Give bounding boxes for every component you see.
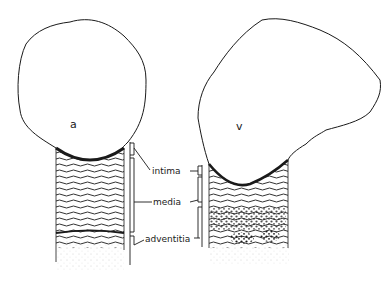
label-adventitia: adventitia <box>145 234 190 244</box>
vein-lumen-outline <box>198 19 381 164</box>
vein-wall <box>209 160 289 264</box>
label-media: media <box>153 197 181 207</box>
label-intima: intima <box>152 166 181 176</box>
artery-brackets <box>130 142 152 265</box>
vessel-wall-diagram: a intima media adventitia v <box>0 0 392 286</box>
artery-lumen-outline <box>18 20 146 150</box>
vein-label: v <box>236 120 243 133</box>
vein-brackets <box>190 165 202 247</box>
artery-label: a <box>70 118 77 131</box>
artery-wall <box>56 148 124 270</box>
